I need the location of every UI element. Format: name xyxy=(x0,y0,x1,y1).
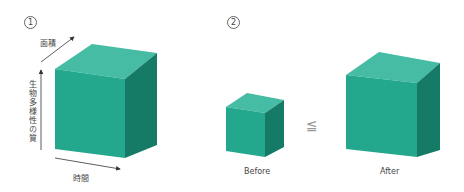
panel2-number: 2 xyxy=(227,16,240,29)
quality-axis-label: 生物多様性の質 xyxy=(26,80,37,143)
relation-symbol: ≦ xyxy=(306,117,318,133)
area-axis-label: 面積 xyxy=(40,37,56,48)
cube-panel1 xyxy=(55,44,157,158)
cube-before xyxy=(226,93,284,157)
before-label: Before xyxy=(244,167,270,176)
panel1-number: 1 xyxy=(24,16,37,29)
time-axis-arrow xyxy=(55,158,120,169)
after-label: After xyxy=(380,167,399,176)
cube-after xyxy=(346,52,440,157)
time-axis-label: 時間 xyxy=(73,172,89,183)
